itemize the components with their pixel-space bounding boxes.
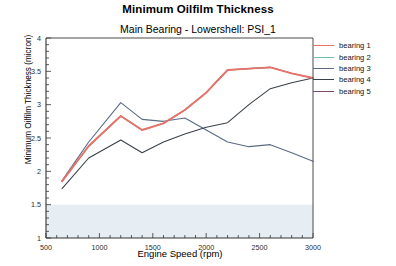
legend-label-bearing-1: bearing 1 [339, 41, 371, 50]
svg-text:3000: 3000 [305, 243, 321, 252]
svg-text:1.5: 1.5 [31, 200, 41, 209]
legend-item-bearing-4[interactable]: bearing 4 [313, 74, 395, 85]
svg-text:1000: 1000 [91, 243, 107, 252]
band-rect [46, 205, 313, 238]
svg-text:1500: 1500 [145, 243, 161, 252]
legend-swatch-bearing-5 [313, 91, 334, 92]
chart-container: Minimum Oilfilm Thickness Main Bearing -… [0, 0, 396, 266]
legend-label-bearing-5: bearing 5 [339, 87, 371, 96]
legend-swatch-bearing-3 [313, 68, 334, 69]
shaded-band [46, 205, 313, 238]
svg-text:2500: 2500 [252, 243, 268, 252]
svg-text:500: 500 [40, 243, 52, 252]
legend-swatch-bearing-1 [313, 45, 334, 46]
series-line-bearing-2 [62, 67, 313, 181]
series-line-bearing-5 [62, 67, 313, 181]
legend-label-bearing-2: bearing 2 [339, 53, 371, 62]
legend-label-bearing-3: bearing 3 [339, 64, 371, 73]
legend-swatch-bearing-2 [313, 57, 334, 58]
legend-label-bearing-4: bearing 4 [339, 75, 371, 84]
legend-item-bearing-3[interactable]: bearing 3 [313, 63, 395, 74]
svg-text:2000: 2000 [198, 243, 214, 252]
legend-item-bearing-5[interactable]: bearing 5 [313, 86, 395, 97]
legend: bearing 1 bearing 2 bearing 3 bearing 4 … [313, 40, 395, 100]
svg-text:2.5: 2.5 [31, 134, 41, 143]
series-line-bearing-3 [62, 103, 313, 181]
svg-text:4: 4 [37, 34, 41, 43]
svg-text:2: 2 [37, 167, 41, 176]
series-line-bearing-1 [62, 67, 313, 181]
svg-text:1: 1 [37, 234, 41, 243]
legend-swatch-bearing-4 [313, 79, 334, 80]
legend-item-bearing-2[interactable]: bearing 2 [313, 51, 395, 62]
svg-text:3.5: 3.5 [31, 67, 41, 76]
series-line-bearing-4 [62, 78, 313, 189]
legend-item-bearing-1[interactable]: bearing 1 [313, 40, 395, 51]
svg-text:3: 3 [37, 100, 41, 109]
data-series-group [62, 67, 313, 188]
